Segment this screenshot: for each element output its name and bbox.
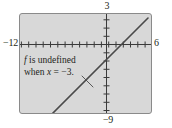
annotation-line-1: f is undefined [24, 55, 94, 67]
annotation-line-2-rest: = −3. [51, 67, 74, 77]
annotation-line-1-rest: is undefined [27, 55, 76, 65]
window-xmax-label: 6 [153, 38, 171, 48]
window-ymin-label: −9 [97, 115, 119, 125]
annotation-line-2-prefix: when [24, 67, 47, 77]
undefined-point-annotation: f is undefined when x = −3. [24, 55, 94, 78]
graphing-window-figure: 3 −12 6 −9 [0, 0, 172, 128]
window-xmin-label: −12 [0, 38, 19, 48]
calculator-screen: f is undefined when x = −3. [19, 13, 152, 114]
annotation-line-2: when x = −3. [24, 67, 94, 79]
window-ymax-label: 3 [100, 1, 114, 11]
